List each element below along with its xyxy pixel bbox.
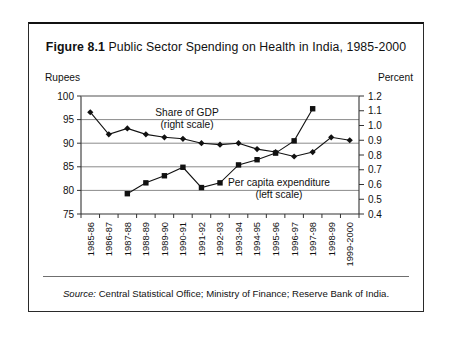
x-axis-tick-label: 1995-96 [271, 222, 281, 256]
data-point-marker [199, 185, 204, 190]
data-point-marker [236, 162, 241, 167]
data-point-marker [143, 180, 148, 185]
left-axis-tick-label: 95 [63, 114, 75, 125]
data-point-marker [180, 136, 186, 142]
source-note: Source: Central Statistical Office; Mini… [29, 288, 423, 299]
x-axis-tick-label: 1985-86 [86, 222, 96, 256]
data-point-marker [217, 180, 222, 185]
left-axis-title: Rupees [45, 72, 80, 83]
annotation-share-of-gdp-scale: (right scale) [160, 119, 213, 130]
data-point-marker [254, 146, 260, 152]
right-axis-tick-label: 0.4 [368, 209, 382, 220]
right-axis-tick-label: 1.1 [368, 105, 382, 116]
data-point-marker [180, 165, 185, 170]
x-axis-tick-label: 1989-90 [160, 222, 170, 256]
left-axis-tick-label: 100 [57, 91, 74, 102]
left-axis-tick-label: 85 [63, 161, 75, 172]
x-axis-tick-label: 1993-94 [234, 222, 244, 256]
data-point-marker [162, 173, 167, 178]
data-point-marker [124, 125, 130, 131]
data-point-marker [161, 134, 167, 140]
right-axis-title: Percent [378, 72, 413, 83]
data-point-marker [217, 142, 223, 148]
data-point-marker [291, 138, 296, 143]
figure-number: Figure 8.1 [46, 40, 105, 54]
data-point-marker [235, 140, 241, 146]
x-axis-tick-label: 1992-93 [215, 222, 225, 256]
figure-title-text: Public Sector Spending on Health in Indi… [108, 40, 406, 54]
annotation-share-of-gdp: Share of GDP [155, 107, 219, 118]
x-axis-tick-label: 1998-99 [327, 222, 337, 256]
x-axis-tick-label: 1999-2000 [345, 222, 355, 266]
chart-svg: 75808590951000.40.50.60.70.80.91.01.11.2… [47, 90, 409, 305]
figure-title: Figure 8.1 Public Sector Spending on Hea… [29, 40, 423, 54]
right-axis-tick-label: 0.7 [368, 164, 382, 175]
data-point-marker [143, 131, 149, 137]
annotation-per-capita-scale: (left scale) [256, 189, 303, 200]
x-axis-tick-label: 1988-89 [141, 222, 151, 256]
left-axis-tick-label: 80 [63, 185, 75, 196]
source-divider [43, 276, 409, 277]
data-point-marker [198, 140, 204, 146]
chart-plot-area: 75808590951000.40.50.60.70.80.91.01.11.2… [47, 90, 409, 210]
right-axis-tick-label: 0.9 [368, 135, 382, 146]
left-axis-tick-label: 90 [63, 138, 75, 149]
data-point-marker [125, 191, 130, 196]
data-point-marker [273, 150, 278, 155]
series-line [90, 112, 349, 156]
x-axis-tick-label: 1986-87 [104, 222, 114, 256]
x-axis-tick-label: 1997-98 [308, 222, 318, 256]
data-point-marker [310, 106, 315, 111]
data-point-marker [254, 157, 259, 162]
annotation-per-capita: Per capita expenditure [228, 177, 330, 188]
right-axis-tick-label: 0.5 [368, 194, 382, 205]
right-axis-tick-label: 1.0 [368, 120, 382, 131]
x-axis-tick-label: 1991-92 [197, 222, 207, 256]
x-axis-tick-label: 1996-97 [290, 222, 300, 256]
figure-card: Figure 8.1 Public Sector Spending on Hea… [28, 22, 424, 312]
x-axis-tick-label: 1990-91 [178, 222, 188, 256]
source-prefix: Source: [63, 288, 96, 299]
right-axis-tick-label: 1.2 [368, 91, 382, 102]
x-axis-tick-label: 1987-88 [123, 222, 133, 256]
x-axis-tick-label: 1994-95 [252, 222, 262, 256]
right-axis-tick-label: 0.6 [368, 179, 382, 190]
source-text: Central Statistical Office; Ministry of … [99, 288, 389, 299]
right-axis-tick-label: 0.8 [368, 150, 382, 161]
series-share-of-gdp [87, 109, 353, 159]
data-point-marker [347, 137, 353, 143]
data-point-marker [291, 153, 297, 159]
left-axis-tick-label: 75 [63, 209, 75, 220]
